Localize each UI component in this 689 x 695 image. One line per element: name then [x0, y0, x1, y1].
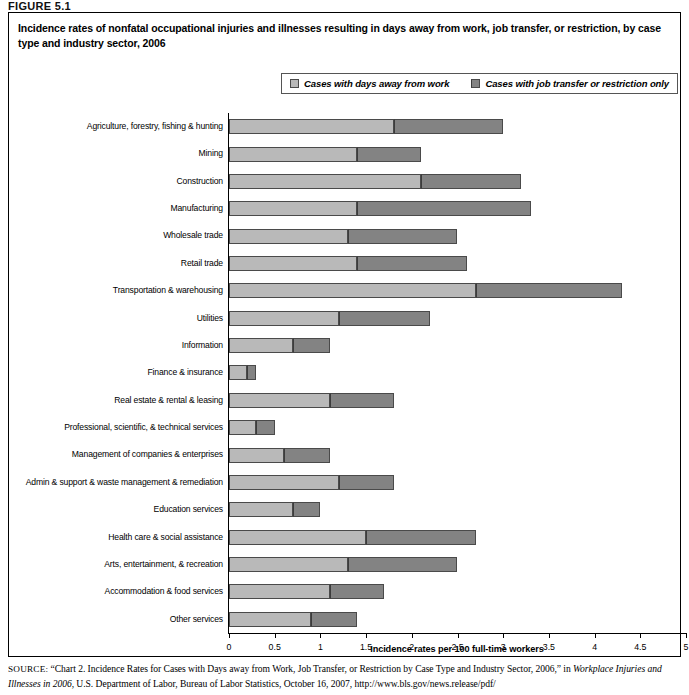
stacked-bar [229, 229, 457, 244]
chart-row: Other services [229, 606, 686, 633]
bar-segment-days-away [229, 174, 421, 189]
category-label: Accommodation & food services [105, 578, 229, 605]
category-label: Transportation & warehousing [113, 277, 229, 304]
figure-frame: Incidence rates of nonfatal occupational… [8, 12, 681, 657]
legend-label-job-transfer: Cases with job transfer or restriction o… [485, 78, 669, 89]
chart-row: Utilities [229, 305, 686, 332]
x-axis-tick [229, 633, 230, 638]
category-label: Education services [154, 496, 229, 523]
chart-row: Real estate & rental & leasing [229, 387, 686, 414]
bar-segment-days-away [229, 584, 330, 599]
chart-row: Transportation & warehousing [229, 277, 686, 304]
bar-segment-days-away [229, 365, 247, 380]
bar-segment-job-transfer [394, 119, 504, 134]
bar-segment-job-transfer [293, 502, 320, 517]
stacked-bar [229, 502, 320, 517]
bar-segment-job-transfer [348, 229, 458, 244]
bar-segment-job-transfer [357, 256, 467, 271]
bar-segment-job-transfer [256, 420, 274, 435]
category-label: Retail trade [181, 250, 229, 277]
x-axis-tick [686, 633, 687, 638]
bar-segment-days-away [229, 311, 339, 326]
category-label: Real estate & rental & leasing [114, 387, 229, 414]
stacked-bar [229, 612, 357, 627]
bar-segment-job-transfer [330, 393, 394, 408]
page-title: Incidence rates of nonfatal occupational… [18, 21, 670, 51]
bar-segment-job-transfer [476, 283, 622, 298]
bar-segment-days-away [229, 448, 284, 463]
chart-row: Finance & insurance [229, 359, 686, 386]
category-label: Finance & insurance [148, 359, 230, 386]
stacked-bar [229, 393, 394, 408]
bar-segment-days-away [229, 147, 357, 162]
stacked-bar [229, 147, 421, 162]
stacked-bar [229, 530, 476, 545]
category-label: Professional, scientific, & technical se… [64, 414, 229, 441]
bar-segment-days-away [229, 283, 476, 298]
chart-row: Admin & support & waste management & rem… [229, 469, 686, 496]
stacked-bar [229, 448, 330, 463]
category-label: Manufacturing [170, 195, 229, 222]
chart-plot-area: Agriculture, forestry, fishing & hunting… [228, 113, 686, 634]
chart-row: Information [229, 332, 686, 359]
category-label: Management of companies & enterprises [72, 441, 229, 468]
chart-row: Arts, entertainment, & recreation [229, 551, 686, 578]
chart-legend: Cases with days away from work Cases wit… [281, 73, 678, 94]
chart-row: Manufacturing [229, 195, 686, 222]
figure-label: FIGURE 5.1 [8, 0, 71, 12]
x-axis-tick [320, 633, 321, 638]
category-label: Agriculture, forestry, fishing & hunting [87, 113, 229, 140]
stacked-bar [229, 119, 503, 134]
category-label: Utilities [197, 305, 229, 332]
chart-row: Professional, scientific, & technical se… [229, 414, 686, 441]
x-axis-tick [549, 633, 550, 638]
x-axis-tick [366, 633, 367, 638]
category-label: Arts, entertainment, & recreation [104, 551, 229, 578]
chart-row: Wholesale trade [229, 222, 686, 249]
chart-row: Construction [229, 168, 686, 195]
category-label: Other services [170, 606, 229, 633]
bar-segment-job-transfer [421, 174, 522, 189]
stacked-bar [229, 174, 521, 189]
bar-segment-days-away [229, 229, 348, 244]
bar-segment-job-transfer [247, 365, 256, 380]
bar-segment-job-transfer [293, 338, 330, 353]
stacked-bar [229, 557, 457, 572]
chart-row: Management of companies & enterprises [229, 441, 686, 468]
chart-row: Agriculture, forestry, fishing & hunting [229, 113, 686, 140]
category-label: Wholesale trade [163, 222, 229, 249]
x-axis-tick [640, 633, 641, 638]
legend-swatch-days-away [290, 79, 299, 88]
bar-segment-days-away [229, 256, 357, 271]
legend-entry-job-transfer: Cases with job transfer or restriction o… [471, 78, 669, 89]
bar-segment-job-transfer [339, 475, 394, 490]
bar-segment-job-transfer [339, 311, 430, 326]
bar-segment-days-away [229, 338, 293, 353]
chart-row: Retail trade [229, 250, 686, 277]
stacked-bar [229, 256, 467, 271]
source-line2: , U.S. Department of Labor, Bureau of La… [72, 678, 496, 689]
bar-segment-job-transfer [311, 612, 357, 627]
category-label: Construction [177, 168, 229, 195]
source-line1: “Chart 2. Incidence Rates for Cases with… [48, 663, 573, 674]
bar-segment-days-away [229, 475, 339, 490]
legend-label-days-away: Cases with days away from work [304, 78, 449, 89]
legend-swatch-job-transfer [471, 79, 480, 88]
source-note: SOURCE: “Chart 2. Incidence Rates for Ca… [8, 662, 683, 690]
bar-segment-job-transfer [357, 201, 531, 216]
stacked-bar [229, 283, 622, 298]
bar-segment-job-transfer [330, 584, 385, 599]
x-axis-tick [458, 633, 459, 638]
stacked-bar [229, 420, 275, 435]
chart-row: Health care & social assistance [229, 524, 686, 551]
stacked-bar [229, 584, 384, 599]
stacked-bar [229, 201, 531, 216]
legend-entry-days-away: Cases with days away from work [290, 78, 449, 89]
source-prefix: SOURCE: [8, 664, 48, 674]
stacked-bar [229, 475, 394, 490]
x-axis-tick [503, 633, 504, 638]
x-axis-tick [595, 633, 596, 638]
bar-segment-days-away [229, 420, 256, 435]
bar-segment-days-away [229, 201, 357, 216]
bar-segment-days-away [229, 612, 311, 627]
